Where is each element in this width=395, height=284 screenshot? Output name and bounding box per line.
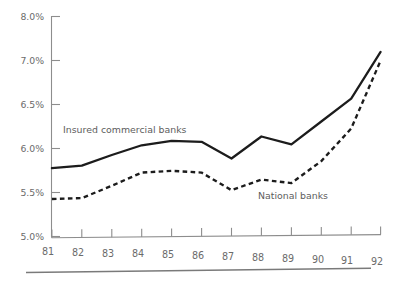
x-axis-tick-label: 92 <box>371 256 383 267</box>
y-axis-tick-label: 6.0% <box>20 143 44 154</box>
x-axis-tick-label: 88 <box>252 252 264 263</box>
y-axis-tick-label: 8.0% <box>20 11 44 22</box>
line-chart: 8.0% 7.0% 6.5% 6.0% 5.5% 5.0% <box>0 0 395 284</box>
x-axis-line <box>52 235 382 238</box>
x-axis-tick-label: 87 <box>222 251 234 262</box>
x-axis-tick-label: 91 <box>341 255 353 266</box>
x-axis-tick-label: 83 <box>102 248 114 259</box>
y-axis-labels: 8.0% 7.0% 6.5% 6.0% 5.5% 5.0% <box>20 11 44 242</box>
y-axis-tick-label: 6.5% <box>20 99 44 110</box>
x-axis-tick-label: 84 <box>132 248 144 259</box>
series-label-national-banks: National banks <box>258 190 328 201</box>
x-axis-labels: 81 82 83 84 85 86 87 88 89 90 91 92 <box>42 246 383 267</box>
x-axis-tick-label: 81 <box>42 246 54 257</box>
y-axis-tick-marks <box>52 17 61 237</box>
y-axis-tick-label: 7.0% <box>20 55 44 66</box>
x-axis-tick-label: 86 <box>192 250 204 261</box>
x-axis-tick-label: 89 <box>282 253 294 264</box>
bottom-divider-rule <box>26 268 371 272</box>
x-axis-tick-label: 85 <box>162 249 174 260</box>
chart-container: 8.0% 7.0% 6.5% 6.0% 5.5% 5.0% <box>0 0 395 284</box>
y-axis-tick-label: 5.5% <box>20 187 44 198</box>
series-label-insured-commercial-banks: Insured commercial banks <box>63 124 187 135</box>
series-line-insured-commercial-banks <box>52 52 381 168</box>
x-axis-tick-label: 90 <box>312 254 324 265</box>
y-axis-tick-label: 5.0% <box>20 231 44 242</box>
x-axis-tick-label: 82 <box>72 247 84 258</box>
